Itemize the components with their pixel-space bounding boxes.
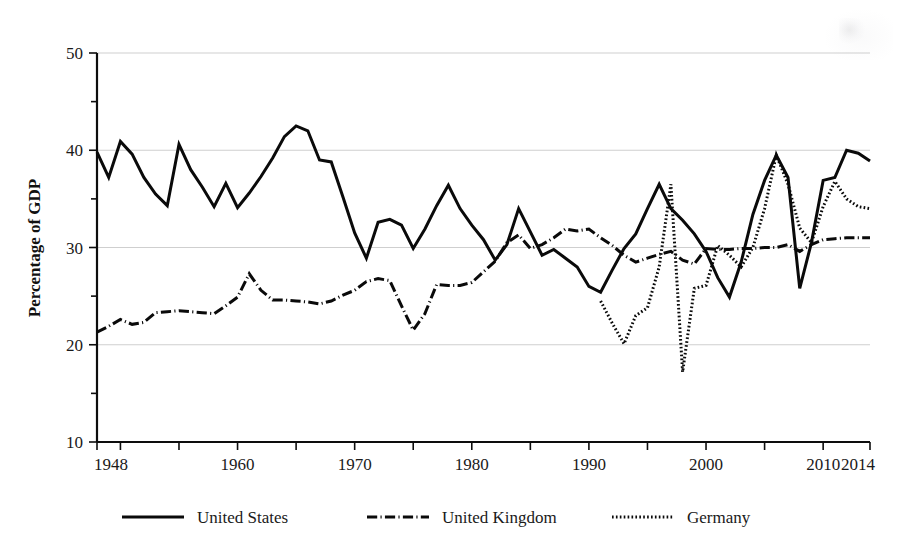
line-chart: 1020304050194819601970198019902000201020… — [0, 0, 913, 559]
y-tick-label-20: 20 — [66, 336, 83, 355]
series-line-united-states — [97, 126, 870, 297]
series-line-united-kingdom — [97, 229, 870, 332]
y-tick-label-50: 50 — [66, 44, 83, 63]
legend-label-germany: Germany — [687, 508, 751, 527]
y-axis-title-text: Percentage of GDP — [25, 179, 44, 317]
y-axis-title: Percentage of GDP — [25, 179, 44, 317]
y-tick-label-40: 40 — [66, 141, 83, 160]
legend-label-united-states: United States — [197, 508, 288, 527]
axes — [89, 53, 870, 450]
y-tick-label-10: 10 — [66, 433, 83, 452]
tick-labels: 1020304050194819601970198019902000201020… — [66, 44, 876, 474]
x-tick-label-1980: 1980 — [455, 455, 489, 474]
data-series — [97, 126, 870, 372]
x-tick-label-2000: 2000 — [689, 455, 723, 474]
x-tick-label-1960: 1960 — [221, 455, 255, 474]
chart-legend: United StatesUnited KingdomGermany — [122, 508, 751, 527]
x-tick-label-1990: 1990 — [572, 455, 606, 474]
series-line-germany — [601, 155, 870, 372]
x-tick-label-1948: 1948 — [94, 455, 128, 474]
gridlines — [97, 53, 870, 345]
x-tick-label-2014: 2014 — [841, 455, 876, 474]
x-tick-label-1970: 1970 — [338, 455, 372, 474]
figure-container: 1020304050194819601970198019902000201020… — [0, 0, 913, 559]
y-tick-label-30: 30 — [66, 239, 83, 258]
x-tick-label-2010: 2010 — [806, 455, 840, 474]
legend-label-united-kingdom: United Kingdom — [442, 508, 557, 527]
